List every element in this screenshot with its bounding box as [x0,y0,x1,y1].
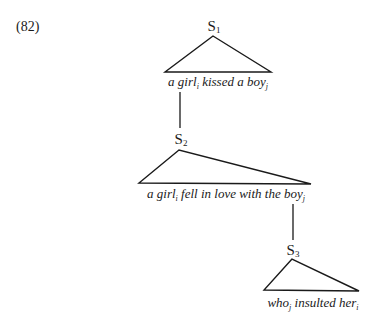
triangle-s1 [165,36,271,72]
index-subscript: j [303,194,305,203]
node-subscript: 1 [216,25,221,35]
phrase-text: a girl [168,74,197,89]
node-subscript: 2 [183,138,188,148]
phrase-text: fell in love with the boy [178,186,303,201]
node-s2: S2 [175,132,188,148]
tree-lines [0,0,378,319]
index-subscript: i [356,303,358,312]
phrase-text: a girl [147,186,176,201]
node-subscript: 3 [295,249,300,259]
phrase-s2: a girli fell in love with the boyj [147,187,305,203]
triangle-s2 [139,150,311,184]
node-s1: S1 [208,19,221,35]
triangle-s3 [264,259,359,291]
phrase-s3: whoj insulted heri [267,296,358,312]
phrase-text: insulted her [291,295,356,310]
phrase-s1: a girli kissed a boyj [168,75,268,91]
node-s3: S3 [287,243,300,259]
phrase-text: kissed a boy [199,74,266,89]
index-subscript: j [266,82,268,91]
phrase-text: who [267,295,289,310]
